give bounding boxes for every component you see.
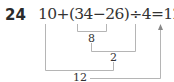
step-result-2: 2 (110, 51, 117, 64)
calculation-tree-lines (0, 0, 174, 82)
arrow-up-icon (158, 24, 163, 30)
step-result-8: 8 (88, 32, 95, 45)
step-result-12: 12 (73, 71, 87, 82)
